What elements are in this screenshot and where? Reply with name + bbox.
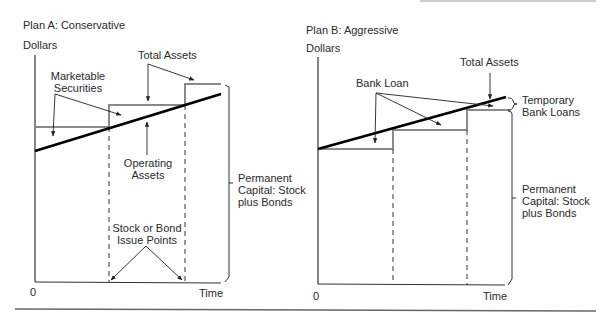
plan-b-origin-label: 0 bbox=[313, 290, 319, 302]
plan-b-bank-loan-arrow-3 bbox=[376, 93, 493, 106]
plan-b-y-axis-label: Dollars bbox=[306, 42, 340, 54]
plan-a-x-axis-label: Time bbox=[199, 287, 223, 299]
plan-b-x-axis-label: Time bbox=[483, 290, 507, 302]
label-line: Capital: Stock bbox=[238, 184, 306, 196]
plan-a-title: Plan A: Conservative bbox=[23, 19, 125, 31]
plan-a-issue-points-label: Stock or Bond Issue Points bbox=[111, 222, 183, 246]
label-line: Permanent bbox=[522, 183, 590, 195]
label-line: Operating bbox=[118, 157, 178, 169]
plan-a-x-axis bbox=[35, 282, 221, 283]
label-line: Permanent bbox=[238, 172, 306, 184]
plan-a-permanent-capital-label: Permanent Capital: Stock plus Bonds bbox=[238, 172, 306, 208]
label-line: Issue Points bbox=[111, 234, 183, 246]
plan-b-temporary-bank-loans-label: Temporary Bank Loans bbox=[522, 94, 580, 118]
label-line: Assets bbox=[118, 169, 178, 181]
plan-b-bank-loan-arrow-1 bbox=[375, 93, 376, 143]
plan-b-total-assets-line bbox=[318, 97, 506, 149]
label-line: plus Bonds bbox=[238, 196, 306, 208]
plan-a-capital-bracket bbox=[225, 85, 229, 282]
plan-b-capital-bracket bbox=[508, 111, 512, 285]
plan-a-y-axis-label: Dollars bbox=[23, 39, 57, 51]
plan-a-total-assets-line bbox=[35, 94, 221, 151]
label-line: Stock or Bond bbox=[111, 222, 183, 234]
plan-a-marketable-securities-arrow-1 bbox=[53, 94, 55, 136]
label-line: Temporary bbox=[522, 94, 580, 106]
plan-a-total-assets-label: Total Assets bbox=[138, 49, 197, 61]
label-line: Capital: Stock bbox=[522, 195, 590, 207]
plan-a-marketable-securities-label: Marketable Securities bbox=[48, 70, 108, 94]
label-line: Marketable bbox=[48, 70, 108, 82]
plan-b-bank-loan-label: Bank Loan bbox=[356, 77, 409, 89]
plan-b-total-assets-label: Total Assets bbox=[460, 56, 519, 68]
label-line: Securities bbox=[48, 82, 108, 94]
plan-a-total-assets-arrow-2 bbox=[148, 64, 194, 80]
plan-b-temporary-loans-brace bbox=[508, 98, 517, 110]
plan-b-bank-loan-arrow-2 bbox=[376, 93, 441, 125]
plan-b-chart bbox=[318, 57, 517, 285]
plan-b-permanent-capital-steps bbox=[318, 110, 510, 149]
plan-b-title: Plan B: Aggressive bbox=[306, 24, 398, 36]
plan-b-permanent-capital-label: Permanent Capital: Stock plus Bonds bbox=[522, 183, 590, 219]
plan-a-issue-points-arrow-1 bbox=[111, 246, 146, 280]
bottom-rule bbox=[15, 309, 596, 311]
plan-a-issue-points-arrow-2 bbox=[146, 246, 182, 280]
label-line: plus Bonds bbox=[522, 207, 590, 219]
plan-a-origin-label: 0 bbox=[30, 286, 36, 298]
plan-b-x-axis bbox=[318, 284, 505, 285]
label-line: Bank Loans bbox=[522, 106, 580, 118]
plan-a-operating-assets-label: Operating Assets bbox=[118, 157, 178, 181]
